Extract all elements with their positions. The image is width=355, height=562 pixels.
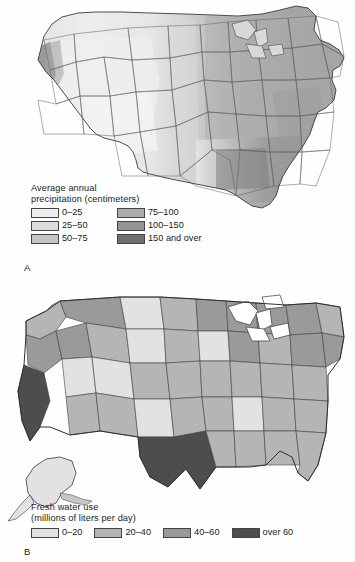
legend-item-150-and-over[interactable]: 150 and over	[117, 234, 202, 244]
legend-rows-a: 0–25 75–100 25–50 100–150	[31, 208, 202, 244]
legend-row: 50–75 150 and over	[31, 234, 202, 244]
legend-item-over-60[interactable]: over 60	[232, 528, 294, 538]
state-al-s	[234, 431, 266, 467]
state-sd	[126, 329, 166, 363]
legend-title-line2: (millions of liters per day)	[31, 513, 305, 524]
legend-swatch-50-75	[31, 234, 59, 244]
legend-item-100-150[interactable]: 100–150	[117, 221, 184, 231]
state-tn	[260, 363, 294, 399]
legend-precipitation: Average annual precipitation (centimeter…	[31, 183, 202, 247]
legend-label-0-20: 0–20	[62, 528, 82, 538]
state-ca	[18, 365, 50, 441]
state-ut	[92, 357, 134, 399]
legend-swatch-0-25	[31, 208, 59, 218]
legend-label-50-75: 50–75	[62, 234, 88, 244]
state-nm	[134, 399, 174, 437]
panel-letter-b: B	[24, 546, 30, 557]
legend-item-0-25[interactable]: 0–25	[31, 208, 104, 218]
legend-label-150-and-over: 150 and over	[148, 234, 202, 244]
state-mo	[200, 361, 232, 397]
state-id	[56, 323, 92, 359]
legend-item-75-100[interactable]: 75–100	[117, 208, 179, 218]
state-sc	[294, 399, 328, 433]
legend-row: 0–25 75–100	[31, 208, 202, 218]
legend-item-0-20[interactable]: 0–20	[31, 528, 82, 538]
state-ia	[198, 331, 230, 361]
state-ga-s	[264, 431, 300, 465]
legend-label-25-50: 25–50	[62, 221, 88, 231]
legend-item-20-40[interactable]: 20–40	[94, 528, 151, 538]
state-ks	[166, 361, 202, 399]
state-ny	[286, 303, 322, 335]
legend-label-20-40: 20–40	[125, 528, 151, 538]
legend-swatch-150-and-over	[117, 234, 145, 244]
state-co	[130, 363, 170, 399]
panel-a-precipitation: Average annual precipitation (centimeter…	[0, 0, 355, 281]
state-az-w	[66, 393, 100, 435]
legend-label-40-60: 40–60	[194, 528, 220, 538]
legend-title-line1: Fresh water use	[31, 502, 305, 513]
legend-label-over-60: over 60	[263, 528, 294, 538]
state-fl	[296, 431, 326, 481]
panel-b-fresh-water-use: Fresh water use (millions of liters per …	[0, 281, 355, 562]
state-nj-md	[322, 333, 344, 367]
legend-row: 0–20 20–40 40–60 over 60	[31, 528, 305, 538]
state-ar	[202, 397, 234, 431]
state-nv	[62, 357, 96, 397]
legend-swatch-75-100	[117, 208, 145, 218]
legend-swatch-100-150	[117, 221, 145, 231]
legend-item-25-50[interactable]: 25–50	[31, 221, 104, 231]
state-nc	[292, 365, 328, 401]
state-al	[262, 397, 296, 431]
state-wi-w	[196, 299, 228, 331]
legend-item-50-75[interactable]: 50–75	[31, 234, 104, 244]
state-ky	[230, 361, 262, 397]
state-ok	[170, 397, 206, 437]
legend-item-40-60[interactable]: 40–60	[163, 528, 220, 538]
legend-title-line2: precipitation (centimeters)	[31, 194, 202, 205]
state-mn	[160, 297, 198, 331]
legend-label-0-25: 0–25	[62, 208, 82, 218]
legend-label-100-150: 100–150	[148, 221, 184, 231]
panel-letter-a: A	[24, 262, 30, 273]
legend-swatch-20-40	[94, 528, 122, 538]
state-pa	[290, 333, 326, 367]
legend-swatch-0-20	[31, 528, 59, 538]
legend-swatch-25-50	[31, 221, 59, 231]
legend-swatch-over-60	[232, 528, 260, 538]
state-ms	[232, 397, 264, 431]
legend-fresh-water-use: Fresh water use (millions of liters per …	[31, 502, 305, 538]
state-ne	[164, 329, 200, 363]
legend-label-75-100: 75–100	[148, 208, 179, 218]
legend-row: 25–50 100–150	[31, 221, 202, 231]
legend-swatch-40-60	[163, 528, 191, 538]
state-or	[26, 331, 62, 373]
figure-root: Average annual precipitation (centimeter…	[0, 0, 355, 562]
state-az	[96, 393, 138, 437]
state-nd	[120, 297, 164, 329]
legend-title-line1: Average annual	[31, 183, 202, 194]
